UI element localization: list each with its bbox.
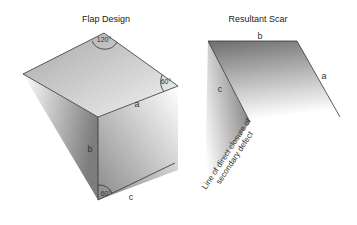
angle-right: 60° xyxy=(161,78,172,85)
scar-label-c: c xyxy=(218,84,223,94)
resultant-scar-title: Resultant Scar xyxy=(228,14,287,24)
angle-bottom: 60° xyxy=(101,190,112,197)
flap-design-figure: Flap Design 120° 60° 60° a b c xyxy=(23,14,178,202)
label-c: c xyxy=(129,192,134,202)
resultant-scar-figure: Resultant Scar b a c Line of direct clos… xyxy=(200,14,340,196)
scar-label-a: a xyxy=(321,71,326,81)
angle-top: 120° xyxy=(97,36,112,43)
scar-label-b: b xyxy=(257,31,262,41)
label-a: a xyxy=(134,99,139,109)
diagram-canvas: Flap Design 120° 60° 60° a b c Resultant… xyxy=(0,0,357,225)
flap-design-title: Flap Design xyxy=(82,14,130,24)
label-b: b xyxy=(87,144,92,154)
